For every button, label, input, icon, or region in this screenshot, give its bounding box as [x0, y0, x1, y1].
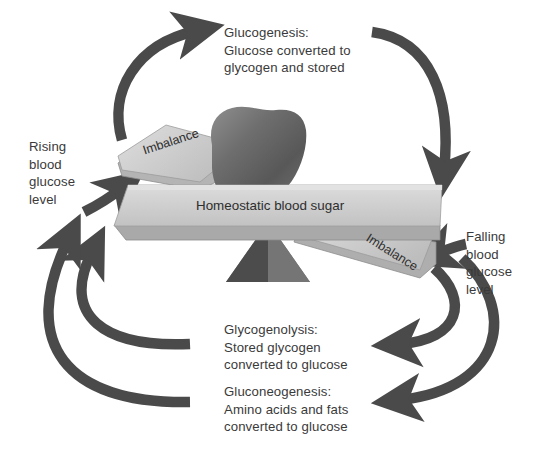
homeostatic-plank-label: Homeostatic blood sugar	[196, 198, 344, 213]
label-glucogenesis: Glucogenesis: Glucose converted to glyco…	[224, 24, 351, 77]
arrow-to-glucogenesis	[118, 31, 196, 140]
arrow-gluconeogenesis-to-balance	[48, 240, 190, 402]
arrow-glycogenolysis-to-balance	[82, 252, 190, 344]
arrow-balance-to-glycogenolysis	[400, 268, 455, 344]
arrow-glucogenesis-to-balance	[372, 32, 446, 170]
label-rising-blood-glucose: Rising blood glucose level	[29, 138, 75, 208]
label-glycogenolysis: Glycogenolysis: Stored glycogen converte…	[224, 321, 348, 374]
label-gluconeogenesis: Gluconeogenesis: Amino acids and fats co…	[224, 383, 348, 436]
arrow-falling-into-balance	[436, 244, 466, 254]
diagram-canvas: Glucogenesis: Glucose converted to glyco…	[0, 0, 536, 453]
arrow-rising-into-balance	[84, 188, 122, 212]
label-falling-blood-glucose: Falling blood glucose level	[466, 228, 512, 298]
